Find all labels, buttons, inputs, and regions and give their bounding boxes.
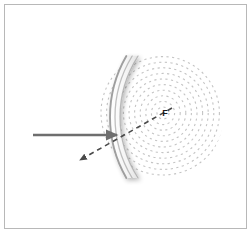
diagram-canvas: F: [0, 0, 252, 234]
plane-wavefront-lines: [28, 68, 84, 166]
focal-point-label: F: [162, 108, 168, 118]
optics-diagram-figure: F: [0, 0, 252, 234]
